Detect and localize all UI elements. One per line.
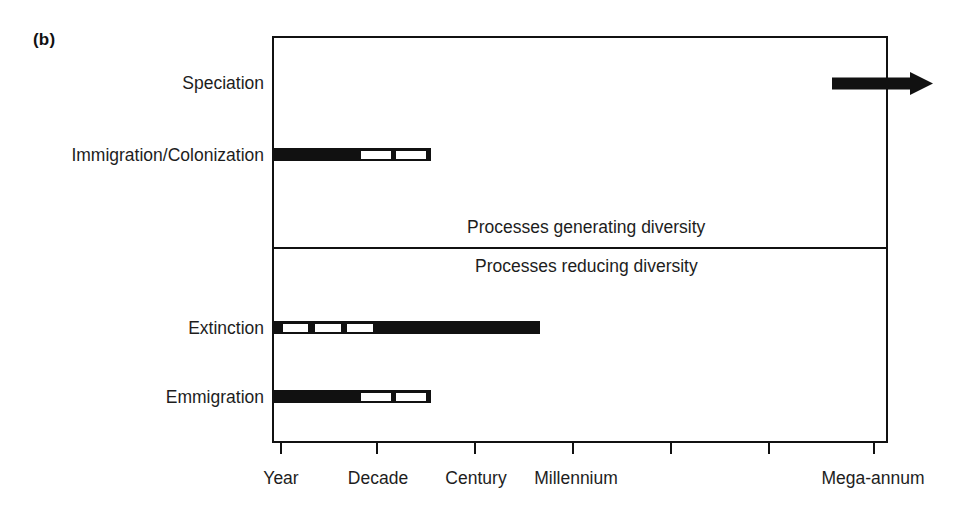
x-axis-tick-1 (280, 443, 282, 454)
section-divider (272, 247, 888, 249)
x-axis-tick-4 (572, 443, 574, 454)
category-label-emmigration: Emmigration (166, 389, 264, 407)
x-axis-label-century: Century (445, 470, 506, 488)
category-label-extinction: Extinction (188, 320, 264, 338)
figure-panel-b: (b) Speciation Immigration/Colonization … (0, 0, 970, 509)
speciation-arrow (830, 68, 938, 100)
x-axis-label-mega-annum: Mega-annum (821, 470, 924, 488)
x-axis-tick-7 (873, 443, 875, 454)
arrow-right-icon (830, 68, 938, 100)
x-axis-label-decade: Decade (348, 470, 408, 488)
bar-dash-gap (347, 324, 373, 332)
bar-dash-gap (396, 151, 426, 159)
category-label-immigration-colonization: Immigration/Colonization (71, 147, 264, 165)
x-axis-tick-6 (768, 443, 770, 454)
bar-emmigration (274, 390, 431, 403)
x-axis-tick-2 (376, 443, 378, 454)
bar-extinction (274, 321, 540, 334)
plot-frame (272, 36, 888, 443)
bar-dash-gap (396, 393, 426, 401)
bar-dash-gap (315, 324, 341, 332)
caption-processes-generating-diversity: Processes generating diversity (467, 219, 705, 237)
category-label-speciation: Speciation (182, 75, 264, 93)
bar-immigration-colonization (273, 148, 431, 161)
x-axis-tick-3 (474, 443, 476, 454)
x-axis-tick-5 (670, 443, 672, 454)
x-axis-label-year: Year (263, 470, 298, 488)
panel-label: (b) (33, 30, 55, 50)
bar-dash-gap (361, 151, 391, 159)
caption-processes-reducing-diversity: Processes reducing diversity (475, 258, 698, 276)
x-axis-label-millennium: Millennium (534, 470, 618, 488)
bar-dash-gap (361, 393, 391, 401)
bar-dash-gap (283, 324, 308, 332)
